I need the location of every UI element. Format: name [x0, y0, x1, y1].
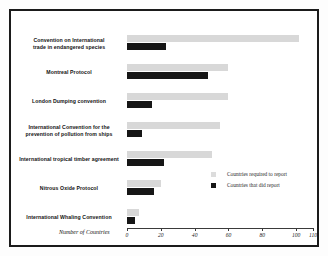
chart-row: Montreal Protocol	[11, 58, 317, 88]
bar-countries-did-report	[127, 130, 142, 137]
x-axis-tick-label: 60	[226, 232, 232, 238]
category-label: Nitrous Oxide Protocol	[15, 185, 123, 192]
chart-row: Convention on Internationaltrade in enda…	[11, 29, 317, 59]
legend-swatch-icon	[211, 172, 216, 177]
x-axis-tick	[262, 228, 263, 231]
bar-countries-did-report	[127, 188, 154, 195]
bar-group	[127, 58, 313, 88]
bar-group	[127, 116, 313, 146]
chart-row: London Dumping convention	[11, 87, 317, 117]
bar-countries-did-report	[127, 101, 152, 108]
bar-countries-did-report	[127, 159, 164, 166]
bar-countries-required	[127, 122, 220, 129]
chart-row: International Convention for thepreventi…	[11, 116, 317, 146]
x-axis-tick	[296, 228, 297, 231]
x-axis-tick	[228, 228, 229, 231]
bar-countries-required	[127, 64, 228, 71]
x-axis-title: Number of Countries	[59, 229, 110, 235]
category-label: International Whaling Convention	[15, 214, 123, 221]
x-axis-tick-label: 40	[192, 232, 198, 238]
bar-countries-required	[127, 180, 161, 187]
bar-group	[127, 29, 313, 59]
x-axis-tick	[161, 228, 162, 231]
x-axis-tick	[313, 228, 314, 231]
x-axis-tick	[127, 228, 128, 231]
category-label: Montreal Protocol	[15, 69, 123, 76]
category-label: Convention on Internationaltrade in enda…	[15, 37, 123, 51]
bar-group	[127, 87, 313, 117]
bar-countries-did-report	[127, 43, 166, 50]
x-axis-tick-label: 80	[259, 232, 265, 238]
x-axis: 020406080100110	[127, 228, 313, 229]
legend-swatch-icon	[211, 183, 216, 188]
chart-page: Convention on Internationaltrade in enda…	[0, 0, 328, 256]
bar-countries-required	[127, 93, 228, 100]
bar-countries-required	[127, 151, 212, 158]
x-axis-tick-label: 0	[126, 232, 129, 238]
bar-countries-required	[127, 35, 299, 42]
x-axis-tick-label: 100	[292, 232, 300, 238]
x-axis-tick-label: 110	[309, 232, 317, 238]
bar-countries-did-report	[127, 217, 135, 224]
chart-frame: Convention on Internationaltrade in enda…	[9, 9, 319, 247]
x-axis-line	[127, 228, 313, 229]
bar-countries-required	[127, 209, 139, 216]
legend-label: Countries that did report	[227, 180, 280, 190]
legend-label: Countries required to report	[227, 169, 287, 179]
category-label: International Convention for thepreventi…	[15, 124, 123, 138]
plot-area: Convention on Internationaltrade in enda…	[11, 11, 317, 245]
category-label: London Dumping convention	[15, 98, 123, 105]
x-axis-tick	[195, 228, 196, 231]
bar-countries-did-report	[127, 72, 208, 79]
category-label: International tropical timber agreement	[15, 156, 123, 163]
x-axis-tick-label: 20	[158, 232, 164, 238]
